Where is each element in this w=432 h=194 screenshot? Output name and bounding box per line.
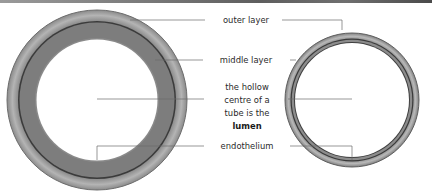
- middle-layer-label: middle layer: [206, 54, 286, 66]
- right-lumen: [295, 43, 409, 157]
- outer-layer-leader-right: [282, 20, 342, 30]
- lumen-text-line-2: centre of a: [210, 94, 284, 107]
- lumen-term: lumen: [210, 120, 284, 133]
- outer-layer-label: outer layer: [208, 14, 284, 26]
- lumen-label: the hollow centre of a tube is the lumen: [210, 81, 284, 133]
- left-lumen: [37, 40, 158, 161]
- lumen-text-line-1: the hollow: [210, 81, 284, 94]
- left-tube: [7, 10, 187, 190]
- lumen-text-line-3: tube is the: [210, 107, 284, 120]
- endothelium-label: endothelium: [206, 140, 288, 152]
